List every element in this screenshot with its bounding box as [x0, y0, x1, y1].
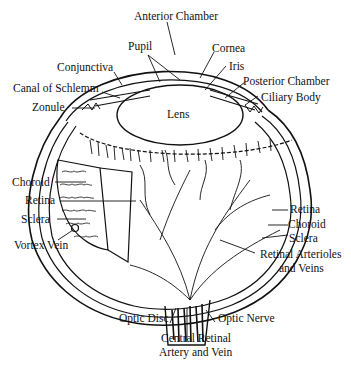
sclera-outline [29, 110, 312, 325]
label-lens: Lens [167, 108, 189, 121]
label-retina-right: Retina [290, 203, 320, 216]
label-pupil: Pupil [128, 40, 152, 53]
label-retinal-arterioles-line2: and Veins [279, 262, 324, 275]
label-posterior-chamber: Posterior Chamber [243, 75, 330, 88]
label-cornea: Cornea [212, 42, 245, 55]
label-vortex-vein: Vortex Vein [14, 239, 68, 252]
label-central-retinal-line1: Central Retinal [161, 332, 231, 345]
label-canal-of-schlemm: Canal of Schlemm [13, 82, 99, 95]
label-choroid-right: Choroid [288, 218, 326, 231]
label-choroid-left: Choroid [12, 176, 50, 189]
label-ciliary-body: Ciliary Body [261, 91, 321, 104]
eye-drawing [0, 0, 351, 365]
label-iris: Iris [229, 60, 244, 73]
label-retinal-arterioles-line1: Retinal Arterioles [260, 248, 341, 261]
eye-anatomy-diagram: Anterior Chamber Pupil Cornea Conjunctiv… [0, 0, 351, 365]
label-central-retinal-line2: Artery and Vein [159, 346, 232, 359]
label-optic-nerve: Optic Nerve [218, 312, 275, 325]
label-conjunctiva: Conjunctiva [57, 61, 113, 74]
label-anterior-chamber: Anterior Chamber [134, 10, 218, 23]
label-zonule: Zonule [32, 101, 65, 114]
retinal-vessels [130, 150, 280, 300]
label-retina-left: Retina [25, 194, 55, 207]
label-sclera-left: Sclera [21, 213, 50, 226]
label-optic-disc: Optic Disc [119, 312, 169, 325]
label-sclera-right: Sclera [289, 232, 318, 245]
